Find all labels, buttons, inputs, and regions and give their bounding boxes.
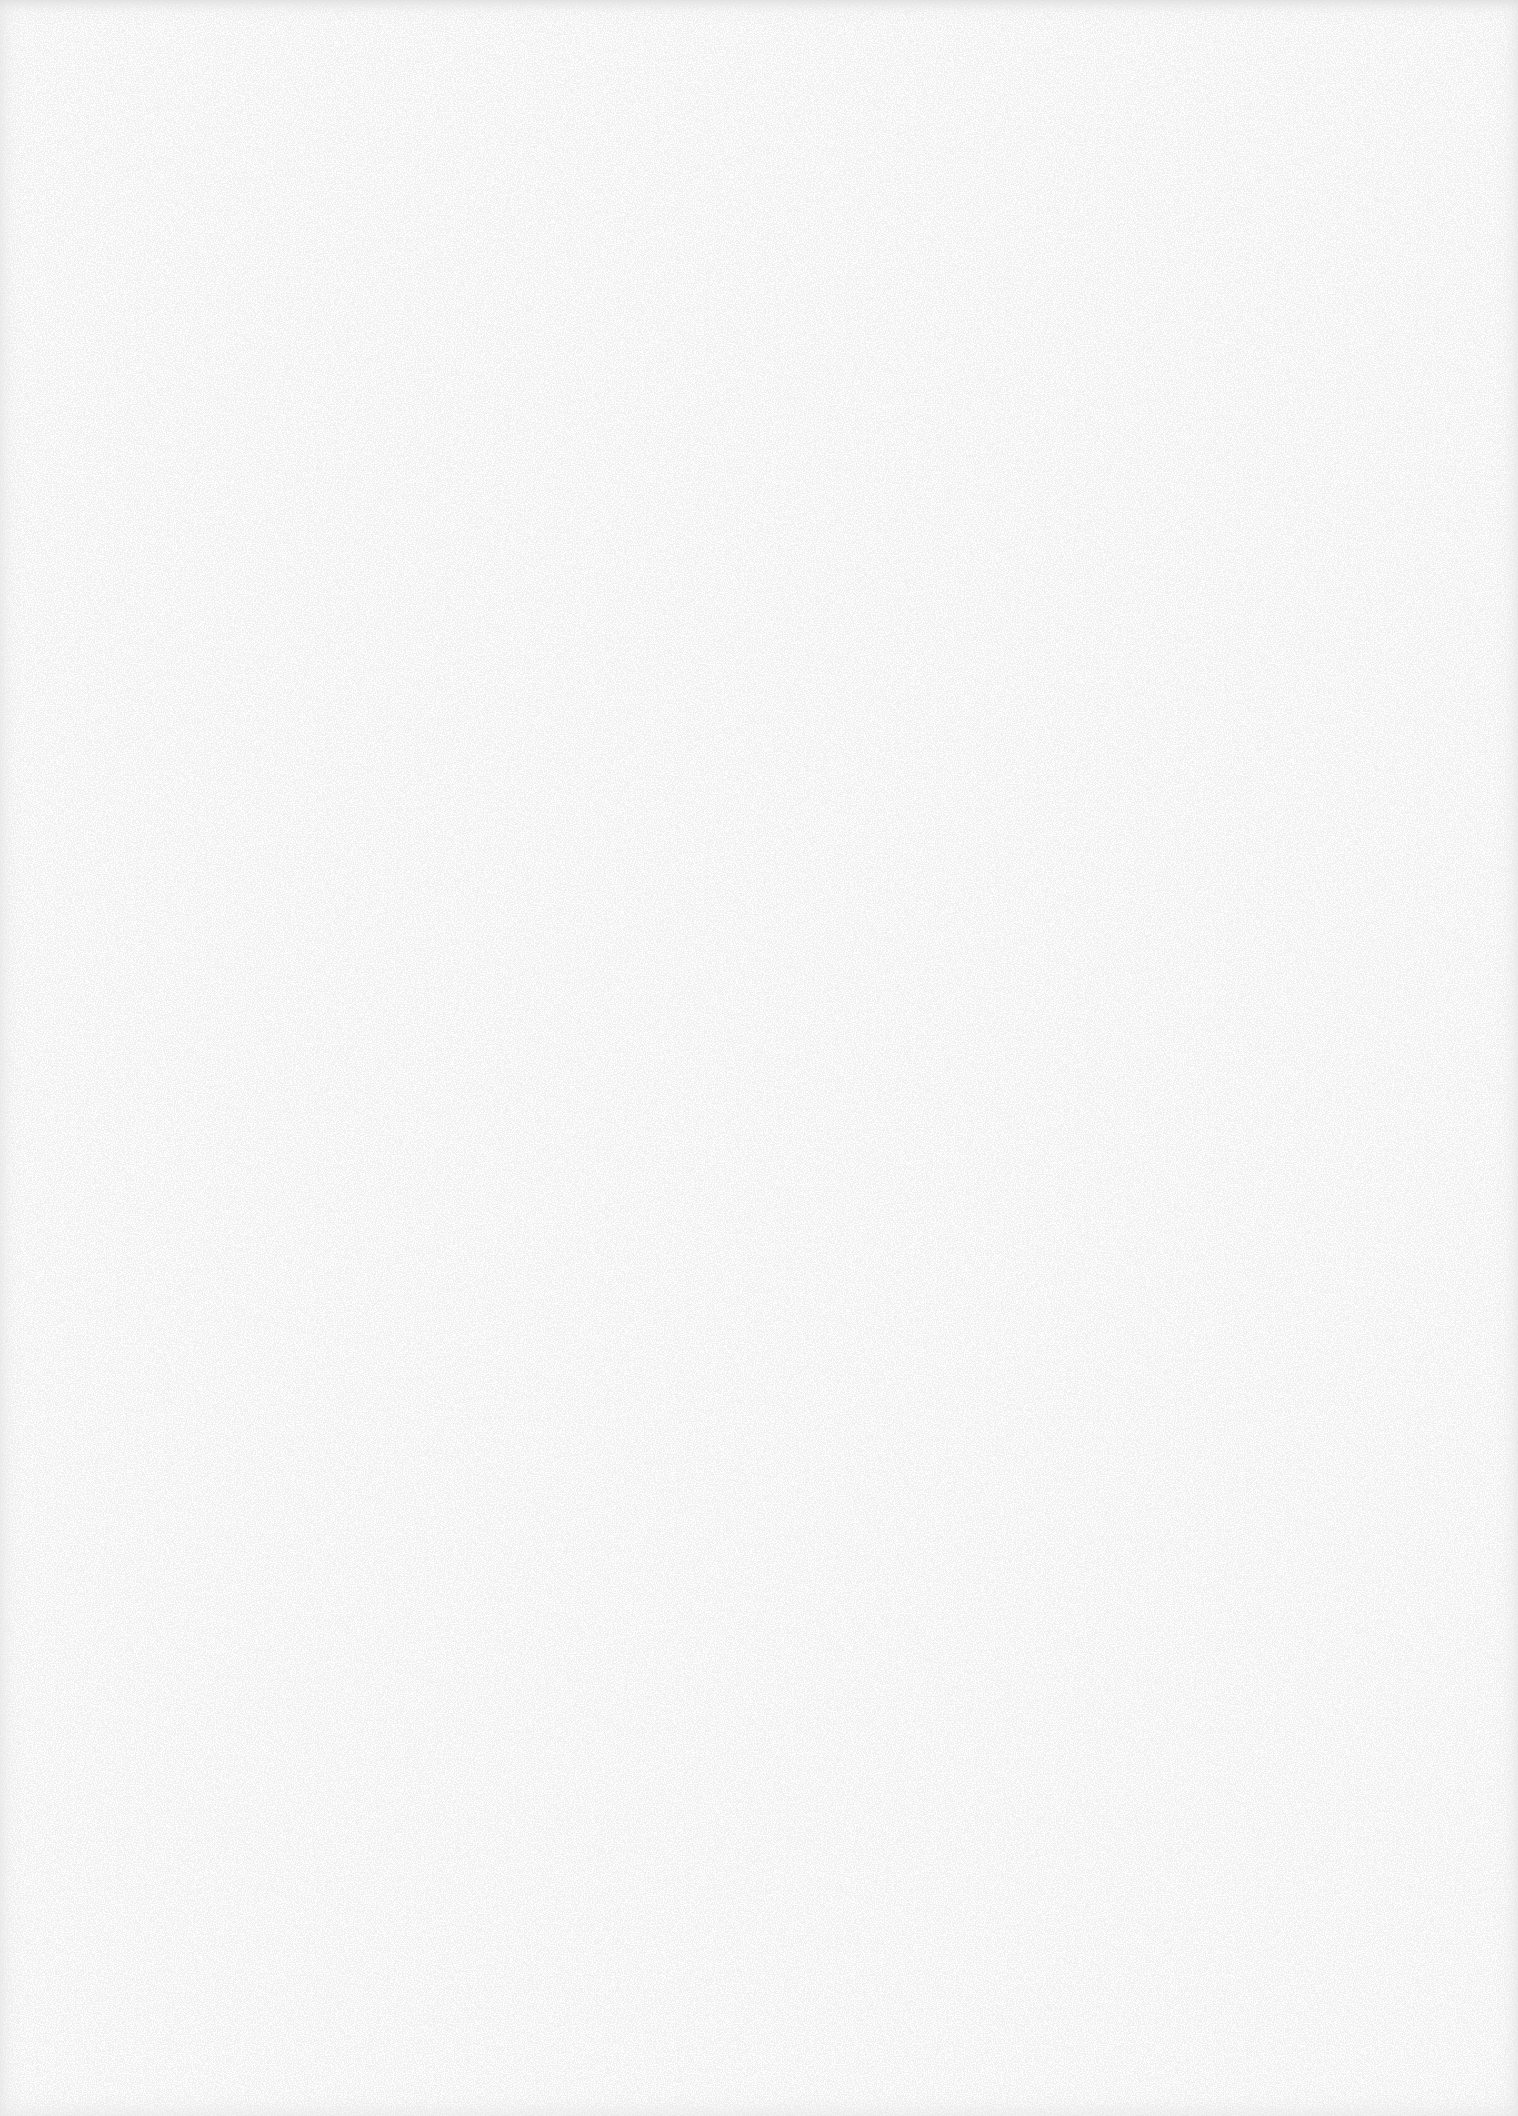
page-content-area	[0, 0, 1518, 2116]
blank-paper-page	[0, 0, 1518, 2116]
